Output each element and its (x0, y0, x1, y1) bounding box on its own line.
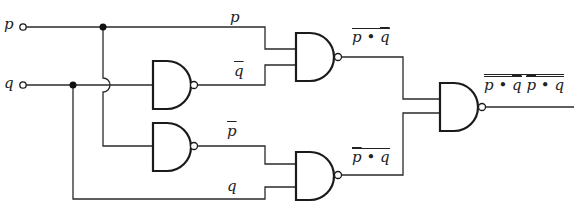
wire-label-q-bar: q (234, 64, 244, 79)
wire-label-p: p (230, 10, 240, 25)
nand-bubble (191, 143, 198, 150)
input-label-q: q (4, 76, 14, 91)
nand-gate-output (440, 83, 478, 131)
wire-p-bar-to-g4 (198, 146, 297, 164)
input-terminal-q (20, 82, 26, 88)
circuit-canvas (0, 0, 574, 211)
wire-label-p-bar: p (227, 124, 237, 139)
nand-gate-p-and-q-bar (296, 33, 334, 81)
nand-bubble (335, 172, 342, 179)
junction-dot-q (70, 82, 77, 89)
wire-label-q: q (227, 179, 237, 194)
input-terminal-p (20, 24, 26, 30)
wire-p-to-g3 (26, 27, 296, 49)
nand-gate-p-bar-and-q (296, 152, 334, 200)
label-not-p-and-q-bar: p • q (352, 28, 390, 45)
wire-q-bar-to-g3 (198, 65, 297, 85)
nand-bubble (191, 82, 198, 89)
junction-dot-p (100, 24, 107, 31)
wire-g3-to-g5 (342, 57, 441, 99)
label-output-expression: p • q p • q (484, 74, 564, 93)
nand-bubble (335, 54, 342, 61)
input-label-p: p (4, 17, 14, 32)
wire-p-to-g2 (103, 27, 153, 146)
label-not-p-bar-and-q: p • q (352, 148, 390, 165)
nand-gate-q-bar (153, 61, 191, 109)
nand-bubble (479, 104, 486, 111)
nand-gate-p-bar (153, 123, 191, 171)
